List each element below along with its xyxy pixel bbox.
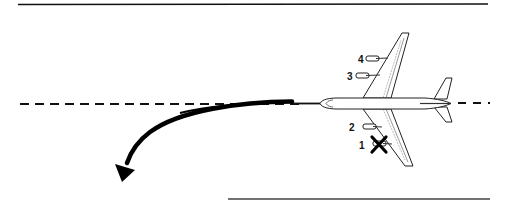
stabilizer-left xyxy=(434,78,452,99)
engine-4 xyxy=(366,56,388,61)
aircraft-icon xyxy=(320,33,452,166)
stabilizer-right xyxy=(434,107,452,122)
diagram-canvas: 4 3 2 1 xyxy=(0,0,507,200)
engine-label-2: 2 xyxy=(349,122,355,133)
engine-label-1: 1 xyxy=(359,140,365,151)
engine-label-3: 3 xyxy=(347,71,353,82)
runway-edge-top xyxy=(18,4,488,5)
yaw-arrow-icon xyxy=(115,102,292,183)
engine-label-4: 4 xyxy=(358,54,364,65)
